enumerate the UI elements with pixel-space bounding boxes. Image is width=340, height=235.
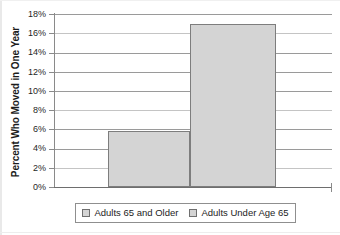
x-axis-line xyxy=(54,187,332,188)
scan-edge-bottom xyxy=(0,232,340,233)
gridline-18 xyxy=(54,14,332,15)
y-tick-label-14: 14% xyxy=(6,48,46,57)
scan-edge-top xyxy=(0,0,340,1)
chart-legend: Adults 65 and Older Adults Under Age 65 xyxy=(75,203,296,223)
y-axis-line xyxy=(54,13,55,188)
legend-item-adults-under-age-65[interactable]: Adults Under Age 65 xyxy=(189,208,288,218)
y-tick-label-16: 16% xyxy=(6,29,46,38)
y-tick-label-18: 18% xyxy=(6,10,46,19)
bar-adults-under-age-65[interactable] xyxy=(190,24,276,187)
legend-item-adults-65-and-older[interactable]: Adults 65 and Older xyxy=(82,208,178,218)
y-tick-label-4: 4% xyxy=(6,144,46,153)
y-tick-label-0: 0% xyxy=(6,183,46,192)
y-tick-label-6: 6% xyxy=(6,125,46,134)
legend-swatch-icon-adults-under-age-65 xyxy=(189,209,197,217)
plot-area xyxy=(54,14,332,187)
y-tick-label-10: 10% xyxy=(6,87,46,96)
y-tick-label-8: 8% xyxy=(6,106,46,115)
legend-label-adults-under-age-65: Adults Under Age 65 xyxy=(201,208,288,218)
legend-swatch-icon-adults-65-and-older xyxy=(82,209,90,217)
y-tick-label-12: 12% xyxy=(6,68,46,77)
y-tick-label-2: 2% xyxy=(6,164,46,173)
bar-adults-65-and-older[interactable] xyxy=(108,131,190,187)
x-axis-end-tick xyxy=(331,183,332,192)
y-axis-title: Percent Who Moved in One Year xyxy=(8,17,24,187)
legend-label-adults-65-and-older: Adults 65 and Older xyxy=(94,208,178,218)
bar-chart: Percent Who Moved in One Year 18% 16% 14… xyxy=(0,0,340,235)
scan-edge-left xyxy=(0,0,2,235)
